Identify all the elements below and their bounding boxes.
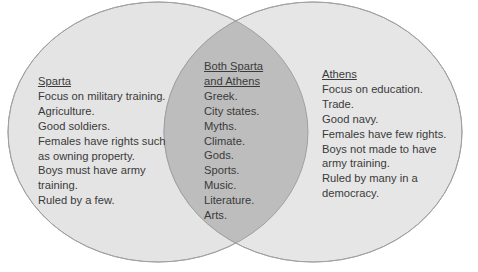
sparta-item: training. — [38, 178, 165, 193]
both-item: Sports. — [204, 163, 263, 178]
both-item: City states. — [204, 104, 263, 119]
sparta-item: Agriculture. — [38, 104, 165, 119]
both-title-line1: Both Sparta — [204, 59, 263, 74]
both-section: Both Sparta and Athens Greek. City state… — [204, 59, 263, 223]
athens-title: Athens — [322, 67, 446, 82]
both-item: Myths. — [204, 119, 263, 134]
athens-item: Boys not made to have — [322, 142, 446, 157]
sparta-item: Females have rights such — [38, 134, 165, 149]
athens-item: Good navy. — [322, 112, 446, 127]
athens-item: army training. — [322, 156, 446, 171]
sparta-title: Sparta — [38, 74, 165, 89]
athens-section: Athens Focus on education. Trade. Good n… — [322, 67, 446, 201]
athens-item: Trade. — [322, 97, 446, 112]
both-item: Music. — [204, 178, 263, 193]
both-item: Gods. — [204, 148, 263, 163]
sparta-item: Ruled by a few. — [38, 193, 165, 208]
sparta-section: Sparta Focus on military training. Agric… — [38, 74, 165, 208]
both-item: Literature. — [204, 193, 263, 208]
both-title-line2: and Athens — [204, 74, 263, 89]
athens-item: Focus on education. — [322, 82, 446, 97]
athens-item: Females have few rights. — [322, 127, 446, 142]
athens-item: democracy. — [322, 186, 446, 201]
both-item: Arts. — [204, 208, 263, 223]
athens-item: Ruled by many in a — [322, 171, 446, 186]
sparta-item: Focus on military training. — [38, 89, 165, 104]
sparta-item: Boys must have army — [38, 163, 165, 178]
both-item: Greek. — [204, 89, 263, 104]
both-item: Climate. — [204, 134, 263, 149]
sparta-item: Good soldiers. — [38, 119, 165, 134]
sparta-item: as owning property. — [38, 149, 165, 164]
